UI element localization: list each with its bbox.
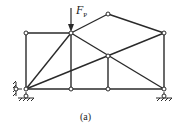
truss-diagram [0, 0, 177, 129]
load-label: FP [76, 3, 87, 19]
truss-members [26, 14, 164, 89]
load-arrow-icon [68, 8, 74, 32]
truss-nodes [24, 12, 166, 91]
figure-caption: (a) [80, 111, 91, 122]
right-support-icon [156, 92, 172, 101]
